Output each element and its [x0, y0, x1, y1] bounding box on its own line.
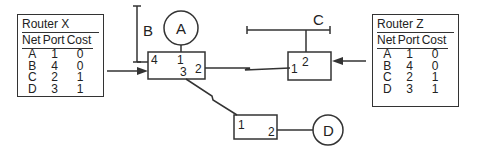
router-y-port-2: 2: [268, 126, 275, 138]
arrow-to-router-z-icon: [332, 57, 343, 65]
router-x-title: Router X: [22, 17, 99, 33]
table-row: D31: [22, 84, 93, 96]
network-c-label: C: [313, 12, 324, 27]
router-x-routing-table: Net Port Cost A10 B40 C21 D31: [22, 33, 93, 95]
table-row: D31: [377, 84, 448, 96]
router-x-port-3: 3: [180, 66, 187, 78]
router-x-table: Router X Net Port Cost A10 B40 C21 D31: [17, 14, 104, 97]
arrow-to-router-x-icon: [137, 67, 148, 75]
router-z-table: Router Z Net Port Cost A10 B40 C21 D31: [372, 14, 459, 107]
router-z-port-2: 2: [302, 56, 309, 68]
network-d-label: D: [323, 123, 334, 138]
router-x-port-2: 2: [195, 63, 202, 75]
network-a-label: A: [176, 21, 186, 36]
router-z-port-1: 1: [291, 63, 298, 75]
network-b-label: B: [143, 23, 153, 38]
router-x-port-4: 4: [151, 54, 158, 66]
router-z-routing-table: Net Port Cost A10 B40 C21 D31: [377, 33, 448, 95]
router-z-title: Router Z: [377, 17, 454, 33]
router-y-port-1: 1: [238, 119, 245, 131]
